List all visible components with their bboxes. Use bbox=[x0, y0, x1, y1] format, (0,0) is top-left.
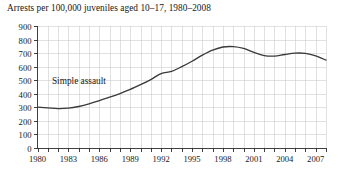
x-tick-label: 1998 bbox=[214, 154, 231, 164]
y-axis-tickmarks bbox=[34, 27, 38, 149]
series-annotations: Simple assault bbox=[52, 76, 106, 86]
chart-figure: Arrests per 100,000 juveniles aged 10–17… bbox=[0, 0, 341, 178]
x-tick-label: 1992 bbox=[153, 154, 170, 164]
y-tick-label: 600 bbox=[19, 63, 32, 73]
y-tick-label: 900 bbox=[19, 22, 32, 32]
x-tick-label: 1989 bbox=[122, 154, 139, 164]
y-tick-label: 700 bbox=[19, 49, 32, 59]
vertical-gridlines bbox=[49, 26, 327, 148]
x-tick-label: 1980 bbox=[29, 154, 46, 164]
y-tick-label: 400 bbox=[19, 90, 32, 100]
y-axis-tick-labels: 0100200300400500600700800900 bbox=[19, 22, 32, 154]
y-tick-label: 100 bbox=[19, 130, 32, 140]
x-tick-label: 1986 bbox=[91, 154, 109, 164]
y-tick-label: 300 bbox=[19, 103, 32, 113]
x-tick-label: 1983 bbox=[60, 154, 77, 164]
y-tick-label: 0 bbox=[27, 144, 31, 154]
line-chart-plot: 0100200300400500600700800900 19801983198… bbox=[0, 0, 341, 178]
x-tick-label: 2004 bbox=[276, 154, 294, 164]
x-tick-label: 1995 bbox=[183, 154, 200, 164]
y-tick-label: 200 bbox=[19, 117, 32, 127]
y-tick-label: 800 bbox=[19, 36, 32, 46]
x-tick-label: 2007 bbox=[307, 154, 325, 164]
y-tick-label: 500 bbox=[19, 76, 32, 86]
x-tick-label: 2001 bbox=[245, 154, 262, 164]
x-axis-tick-labels: 1980198319861989199219951998200120042007 bbox=[29, 154, 325, 164]
series-label-simple-assault: Simple assault bbox=[52, 76, 106, 86]
